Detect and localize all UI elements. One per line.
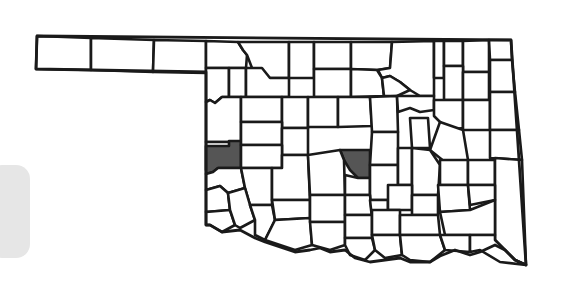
county-grady	[308, 150, 345, 195]
county-washington	[434, 41, 444, 78]
county-logan	[308, 97, 338, 127]
county-lincoln	[370, 132, 398, 165]
county-noble	[351, 69, 384, 97]
county-woodward	[229, 68, 246, 97]
county-marshall	[372, 235, 402, 258]
county-stephens	[310, 195, 345, 222]
county-creek	[370, 96, 398, 132]
county-caddo-north	[241, 122, 282, 145]
county-canadian	[282, 128, 308, 155]
county-haskell	[468, 160, 495, 185]
county-rogers	[444, 66, 463, 100]
county-cimarron	[36, 36, 91, 70]
panhandle	[36, 36, 206, 73]
county-love	[345, 238, 375, 260]
county-greer	[206, 186, 230, 212]
county-seminole	[398, 148, 412, 185]
county-ottawa	[489, 40, 512, 60]
county-delaware	[490, 60, 515, 92]
county-alfalfa	[289, 42, 314, 78]
county-washita	[241, 145, 282, 168]
county-cleveland	[345, 175, 370, 195]
county-jefferson	[310, 222, 345, 250]
county-craig	[463, 40, 489, 72]
county-okmulgee	[410, 118, 430, 148]
county-garfield	[314, 69, 351, 97]
county-tulsa	[397, 96, 434, 112]
county-coal	[412, 195, 438, 215]
county-kingfisher	[282, 97, 308, 128]
county-mcintosh	[440, 160, 468, 185]
county-dewey	[206, 97, 241, 142]
county-garvin	[345, 195, 372, 215]
oklahoma-county-map	[0, 0, 565, 282]
county-pittsburg	[438, 185, 470, 212]
county-texas	[91, 38, 154, 72]
county-grant	[314, 42, 351, 69]
county-payne	[338, 97, 372, 127]
county-nowata	[444, 41, 463, 66]
county-carter	[345, 215, 372, 238]
county-johnston	[372, 210, 400, 235]
county-kay	[351, 42, 392, 70]
county-mayes	[463, 72, 489, 100]
county-pontotoc	[388, 185, 412, 210]
county-cherokee	[463, 100, 490, 130]
county-comanche	[272, 200, 310, 220]
county-atoka	[400, 215, 440, 235]
county-beaver	[153, 40, 206, 73]
county-blaine	[241, 97, 282, 122]
